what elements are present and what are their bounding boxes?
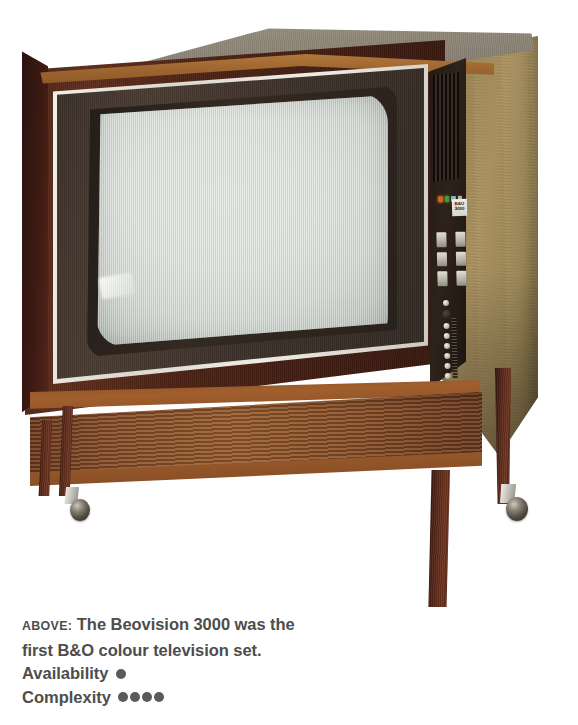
- speaker-vent-slots: [433, 72, 459, 182]
- complexity-label: Complexity: [22, 686, 111, 710]
- control-knob[interactable]: [444, 333, 450, 339]
- channel-button[interactable]: [436, 232, 446, 247]
- caption-line-1: ABOVE: The Beovision 3000 was the: [22, 613, 558, 639]
- rating-dot-icon: [116, 669, 126, 679]
- rating-dot-icon: [130, 692, 140, 702]
- caster-back-left: [70, 499, 90, 521]
- photo-caption: ABOVE: The Beovision 3000 was the first …: [0, 607, 578, 725]
- rating-dot-icon: [142, 692, 152, 702]
- complexity-rating-row: Complexity: [22, 686, 558, 710]
- badge-model-text: 3000: [452, 206, 467, 212]
- page-root: B&O 3000: [0, 0, 578, 725]
- indicator-light-green-icon: [444, 196, 449, 202]
- channel-button[interactable]: [437, 271, 447, 286]
- speaker-grille-shading: [30, 392, 482, 502]
- indicator-light-orange-icon: [438, 196, 443, 202]
- caster-back-right: [506, 497, 528, 521]
- rating-dot-icon: [154, 692, 164, 702]
- caption-text-1: The Beovision 3000 was the: [77, 615, 295, 633]
- availability-rating-row: Availability: [22, 662, 558, 686]
- complexity-dots: [118, 692, 164, 702]
- control-knob[interactable]: [445, 373, 451, 379]
- channel-button[interactable]: [456, 271, 466, 286]
- control-knob[interactable]: [444, 343, 450, 349]
- main-control-knob[interactable]: [442, 310, 451, 319]
- cabinet-left-side-panel: [22, 44, 48, 416]
- availability-label: Availability: [22, 662, 109, 686]
- channel-button[interactable]: [456, 251, 466, 266]
- leg-front-right: [428, 470, 450, 610]
- channel-button-grid[interactable]: [436, 232, 466, 287]
- availability-dots: [116, 669, 126, 679]
- beovision-3000-photo: B&O 3000: [0, 0, 578, 610]
- caption-text-2: first B&O colour television set.: [22, 641, 262, 659]
- control-knob[interactable]: [443, 300, 449, 306]
- leg-back-right: [495, 368, 511, 504]
- knob-column[interactable]: [440, 300, 454, 388]
- bang-olufsen-logo-badge: B&O 3000: [452, 199, 467, 216]
- channel-button[interactable]: [455, 232, 465, 247]
- caption-prefix: ABOVE:: [22, 619, 72, 633]
- caption-line-2: first B&O colour television set.: [22, 639, 558, 663]
- crt-scanlines: [96, 94, 388, 346]
- rating-dot-icon: [118, 692, 128, 702]
- control-knob[interactable]: [444, 363, 450, 369]
- control-knob[interactable]: [444, 353, 450, 359]
- control-knob[interactable]: [443, 323, 449, 329]
- channel-button[interactable]: [437, 252, 447, 267]
